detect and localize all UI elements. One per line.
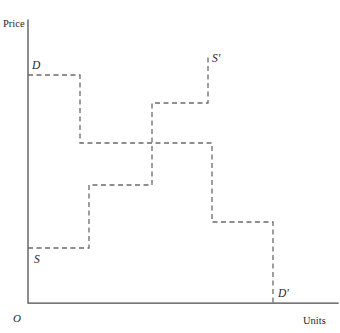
chart-axes <box>28 20 338 303</box>
demand-start-label: D <box>32 60 40 72</box>
supply-curve <box>28 57 208 248</box>
supply-start-label: S <box>34 254 40 266</box>
y-axis-label: Price <box>3 19 25 30</box>
demand-curve <box>28 75 273 303</box>
demand-end-label: D' <box>278 288 289 300</box>
step-demand-supply-figure: Price Units O D D' S S' <box>0 0 340 333</box>
origin-label: O <box>13 313 21 324</box>
x-axis-label: Units <box>303 316 326 327</box>
plot-area <box>0 0 340 333</box>
supply-end-label: S' <box>212 53 220 65</box>
